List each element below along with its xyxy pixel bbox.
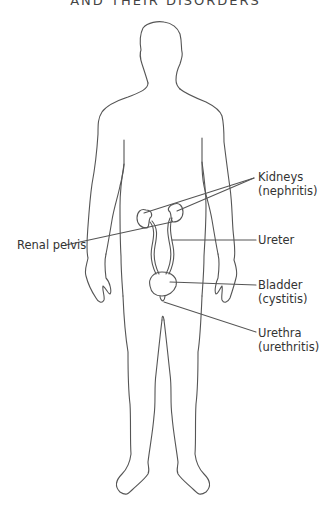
label-kidneys: Kidneys (nephritis)	[258, 170, 318, 198]
ureter-name: Ureter	[258, 233, 294, 247]
left-arm-inner	[106, 164, 124, 254]
left-kidney	[137, 209, 152, 228]
urethra-leader	[164, 302, 256, 332]
right-kidney	[168, 203, 183, 222]
bladder-leader	[170, 282, 256, 285]
urethra-name: Urethra	[258, 326, 319, 340]
right-leg	[164, 296, 210, 494]
urethra-tip	[160, 296, 165, 301]
urethra-disorder: (urethritis)	[258, 340, 319, 354]
label-ureter: Ureter	[258, 233, 294, 247]
bladder-name: Bladder	[258, 278, 308, 292]
label-bladder: Bladder (cystitis)	[258, 278, 308, 306]
kidneys-leader-2	[177, 178, 254, 211]
kidneys-leader-1	[144, 178, 254, 213]
left-arm-outer	[85, 83, 148, 302]
kidneys-disorder: (nephritis)	[258, 184, 318, 198]
body-outline-figure	[0, 0, 331, 521]
bladder-disorder: (cystitis)	[258, 292, 308, 306]
left-torso-side	[120, 140, 124, 296]
right-torso-side	[202, 138, 206, 296]
left-leg	[116, 296, 162, 494]
crotch	[162, 316, 164, 320]
renal-pelvis-name: Renal pelvis	[17, 238, 86, 252]
label-urethra: Urethra (urethritis)	[258, 326, 319, 354]
bladder	[150, 272, 177, 296]
head-outline	[140, 22, 182, 89]
label-renal-pelvis: Renal pelvis	[17, 238, 86, 252]
kidneys-name: Kidneys	[258, 170, 318, 184]
right-arm-outer	[180, 89, 237, 302]
